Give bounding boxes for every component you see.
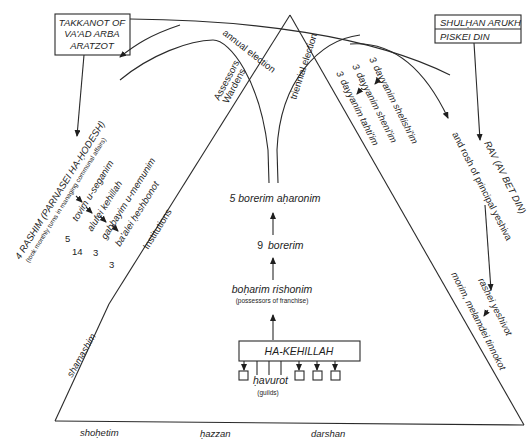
- shulhan-arukh-label: SHULḤAN ARUKH: [440, 17, 521, 28]
- piskei-din-to-rav-arrow: [474, 43, 480, 140]
- shamashim-label: shamashim: [64, 331, 98, 379]
- gabbayim-count: 3: [93, 247, 98, 258]
- shulhan-arukh-box: SHULḤAN ARUKH PISKEI DIN: [435, 15, 521, 43]
- tovim-count: 5: [65, 233, 70, 244]
- borerim-left-line: [268, 150, 269, 183]
- kehillah-box: HA-KEHILLAH: [239, 341, 360, 361]
- takkanot-to-rashim-arrow: [77, 55, 84, 136]
- annual-election-arc: [120, 40, 268, 150]
- rashei-to-morim-arrow: [484, 310, 488, 316]
- boharim-note: (possessors of franchise): [236, 297, 309, 305]
- kehillah-structure-diagram: TAKKANOT OF VA'AD ARBA ARATZOT SHULḤAN A…: [0, 0, 529, 447]
- baalei-count: 3: [109, 259, 114, 270]
- institutions-label: Institutions: [140, 207, 174, 252]
- takkanot-line-1: TAKKANOT OF: [59, 17, 127, 28]
- borerim-label: borerim: [268, 239, 304, 251]
- triennial-election-label: triennial election: [287, 32, 319, 101]
- alufei-count: 14: [72, 246, 83, 257]
- shohetim-label: shoḥetim: [80, 427, 119, 438]
- hazzan-label: ḥazzan: [200, 428, 231, 439]
- kehillah-label: HA-KEHILLAH: [265, 345, 334, 357]
- rashim-note: (took monthly turns in managing communal…: [24, 136, 108, 264]
- takkanot-box: TAKKANOT OF VA'AD ARBA ARATZOT: [55, 14, 130, 55]
- piskei-din-label: PISKEI DIN: [440, 31, 490, 42]
- dayyanim-arrow-2: [357, 88, 362, 94]
- takkanot-line-3: ARATZOT: [69, 40, 115, 51]
- havurot-note: (guilds): [257, 389, 278, 397]
- borerim-right-line: [277, 150, 278, 183]
- rank-arrow-2: [86, 207, 92, 213]
- boharim-label: boḥarim rishonim: [232, 283, 313, 295]
- takkanot-line-2: VA'AD ARBA: [64, 28, 119, 39]
- darshan-label: darshan: [311, 428, 345, 439]
- borerim-aharonim-label: 5 borerim aḥaronim: [229, 192, 320, 204]
- borerim-count: 9: [257, 239, 263, 251]
- havurot-label: ḥavurot: [253, 374, 289, 386]
